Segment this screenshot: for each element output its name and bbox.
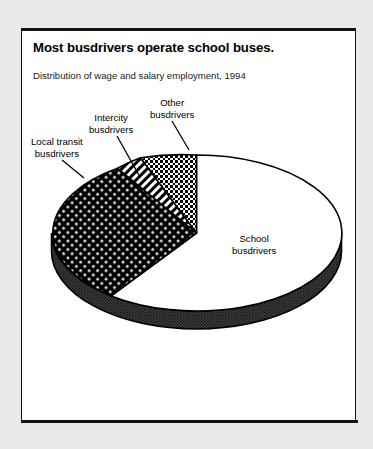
pie-label-school-busdrivers: School busdrivers xyxy=(232,233,276,256)
pie-label-intercity-busdrivers: Intercity busdrivers xyxy=(89,112,133,135)
pie-label-local-transit-line2: busdrivers xyxy=(31,148,83,160)
pie-label-intercity-line2: busdrivers xyxy=(89,124,133,136)
pie-slices xyxy=(53,155,342,311)
pie-label-school-line1: School xyxy=(232,233,276,245)
pie-label-local-transit-line1: Local transit xyxy=(31,136,83,148)
pie-label-other-busdrivers: Other busdrivers xyxy=(150,97,194,120)
pie-label-other-line2: busdrivers xyxy=(150,109,194,121)
pie-chart xyxy=(0,0,373,449)
leader-line-other xyxy=(172,121,189,150)
pie-label-school-line2: busdrivers xyxy=(232,245,276,257)
pie-label-intercity-line1: Intercity xyxy=(89,112,133,124)
pie-label-other-line1: Other xyxy=(150,97,194,109)
pie-label-local-transit-busdrivers: Local transit busdrivers xyxy=(31,136,83,159)
leader-line-local-transit xyxy=(62,160,84,178)
